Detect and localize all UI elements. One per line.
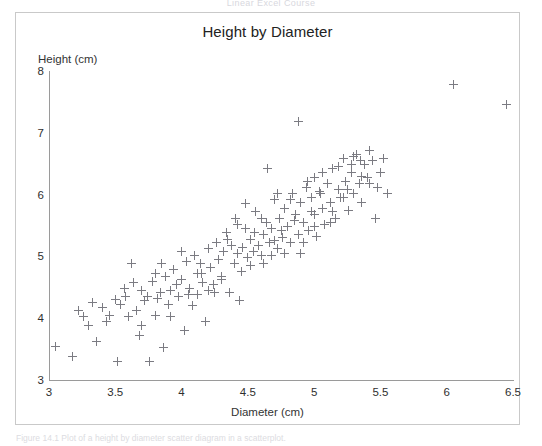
scatter-point: [326, 198, 335, 207]
scatter-point: [135, 331, 144, 340]
scatter-point: [270, 195, 279, 204]
scatter-point: [166, 286, 175, 295]
y-tick-label: 7: [38, 127, 44, 139]
scatter-point: [153, 294, 162, 303]
scatter-point: [223, 235, 232, 244]
scatter-point: [124, 312, 133, 321]
y-axis-label: Height (cm): [38, 53, 97, 65]
scatter-point: [111, 295, 120, 304]
scatter-point: [188, 301, 197, 310]
scatter-point: [184, 290, 193, 299]
scatter-point: [273, 244, 282, 253]
scatter-point: [299, 218, 308, 227]
scatter-point: [137, 321, 146, 330]
scatter-point: [113, 357, 122, 366]
x-tick-label: 3.5: [107, 386, 123, 398]
scatter-point: [365, 146, 374, 155]
scatter-point: [241, 224, 250, 233]
scatter-point: [275, 214, 284, 223]
scatter-point: [383, 189, 392, 198]
scatter-point: [166, 312, 175, 321]
scatter-point: [373, 183, 382, 192]
scatter-point: [265, 238, 274, 247]
scatter-point: [315, 187, 324, 196]
scatter-point: [355, 179, 364, 188]
x-axis-label: Diameter (cm): [16, 406, 519, 418]
scatter-point: [356, 156, 365, 165]
scatter-point: [318, 168, 327, 177]
scatter-point: [209, 280, 218, 289]
scatter-point: [363, 173, 372, 182]
scatter-point: [127, 259, 136, 268]
scatter-point: [210, 288, 219, 297]
scatter-point: [197, 269, 206, 278]
y-tick-label: 4: [38, 312, 44, 324]
scatter-point: [198, 278, 207, 287]
x-tick-label: 3: [46, 386, 52, 398]
scatter-point: [51, 342, 60, 351]
scatter-point: [278, 233, 287, 242]
scatter-point: [190, 251, 199, 260]
scatter-point: [310, 173, 319, 182]
scatter-point: [174, 292, 183, 301]
scatter-point: [254, 241, 263, 250]
scatter-point: [246, 261, 255, 270]
scatter-point: [267, 224, 276, 233]
scatter-point: [193, 290, 202, 299]
scatter-plot-area: [49, 71, 513, 380]
scatter-point: [349, 189, 358, 198]
scatter-point: [331, 214, 340, 223]
scatter-point: [222, 228, 231, 237]
figure-caption: Figure 14.1 Plot of a height by diameter…: [16, 433, 516, 444]
scatter-point: [341, 177, 350, 186]
scatter-point: [193, 269, 202, 278]
scatter-point: [312, 232, 321, 241]
scatter-point: [196, 259, 205, 268]
scatter-point: [302, 183, 311, 192]
scatter-point: [320, 220, 329, 229]
scatter-point: [177, 247, 186, 256]
scatter-point: [288, 189, 297, 198]
scatter-point: [294, 117, 303, 126]
scatter-point: [182, 257, 191, 266]
scatter-point: [249, 247, 258, 256]
scatter-point: [267, 251, 276, 260]
scatter-point: [339, 193, 348, 202]
scatter-point: [217, 275, 226, 284]
scatter-point: [376, 168, 385, 177]
scatter-point: [310, 210, 319, 219]
scatter-point: [145, 357, 154, 366]
scatter-point: [79, 312, 88, 321]
scatter-point: [238, 243, 247, 252]
scatter-point: [310, 222, 319, 231]
scatter-point: [368, 156, 377, 165]
scatter-point: [294, 230, 303, 239]
scatter-point: [185, 284, 194, 293]
scatter-point: [68, 352, 77, 361]
chart-title: Height by Diameter: [16, 23, 519, 40]
scatter-point: [290, 216, 299, 225]
scatter-point: [328, 207, 337, 216]
x-tick-label: 6.5: [505, 386, 521, 398]
scatter-point: [169, 265, 178, 274]
scatter-point: [283, 222, 292, 231]
scatter-point: [291, 210, 300, 219]
scatter-point: [219, 247, 228, 256]
scatter-point: [177, 275, 186, 284]
scatter-point: [360, 160, 369, 169]
scatter-point: [316, 189, 325, 198]
scatter-point: [349, 152, 358, 161]
scatter-point: [343, 185, 352, 194]
scatter-point: [102, 317, 111, 326]
scatter-point: [280, 204, 289, 213]
scatter-point: [303, 177, 312, 186]
scatter-point: [262, 218, 271, 227]
scatter-point: [129, 278, 138, 287]
scatter-point: [121, 292, 130, 301]
scatter-point: [273, 189, 282, 198]
scatter-point: [357, 172, 366, 181]
x-tick-label: 4.5: [240, 386, 256, 398]
scatter-point: [371, 214, 380, 223]
scatter-point: [92, 337, 101, 346]
scatter-point: [347, 168, 356, 177]
